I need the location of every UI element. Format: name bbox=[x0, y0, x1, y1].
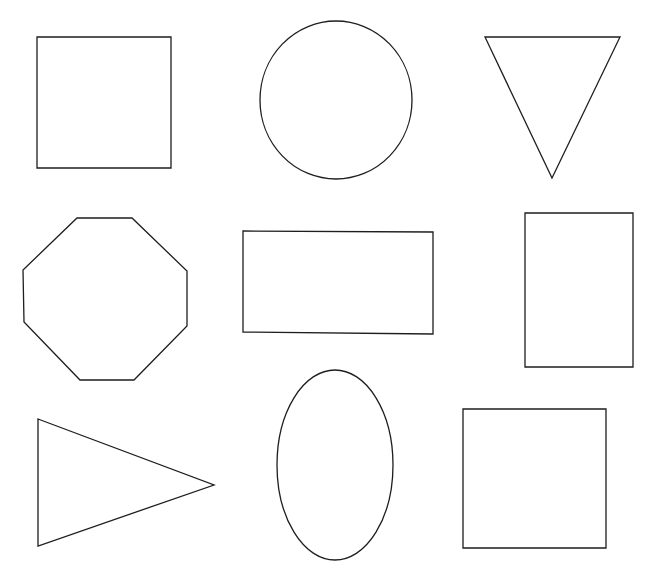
square-shape bbox=[37, 37, 171, 168]
square-shape-bottom bbox=[463, 409, 606, 548]
tall-rectangle-shape bbox=[525, 213, 633, 367]
shapes-canvas bbox=[0, 0, 659, 576]
inverted-triangle-shape bbox=[485, 37, 620, 178]
ellipse-shape bbox=[277, 370, 393, 560]
circle-shape bbox=[260, 21, 412, 179]
right-triangle-shape bbox=[38, 419, 214, 546]
wide-rectangle-shape bbox=[243, 231, 433, 334]
octagon-shape bbox=[23, 218, 187, 380]
